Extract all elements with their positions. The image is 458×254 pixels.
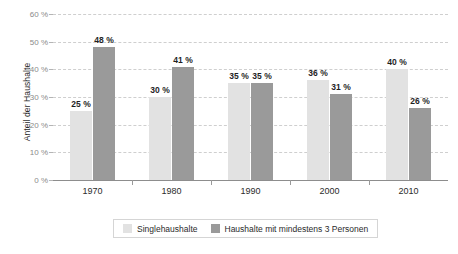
- bar-pair: 40 %26 %: [386, 14, 431, 180]
- bar-pair: 30 %41 %: [149, 14, 194, 180]
- bar[interactable]: 25 %: [70, 111, 92, 180]
- y-tick-label: 50 %: [8, 37, 48, 46]
- legend-swatch-icon-light: [123, 224, 132, 233]
- y-tick-mark: [49, 180, 53, 181]
- bar[interactable]: 36 %: [307, 80, 329, 180]
- x-tick-label: 1970: [58, 186, 128, 196]
- bar-value-label: 40 %: [387, 57, 406, 67]
- bar-chart: Anteil der Haushalte 0 %10 %20 %30 %40 %…: [0, 0, 458, 254]
- bar[interactable]: 41 %: [172, 67, 194, 180]
- y-tick-label: 20 %: [8, 120, 48, 129]
- bar-value-label: 35 %: [229, 71, 248, 81]
- x-tick-mark: [290, 180, 291, 185]
- bar-value-label: 35 %: [252, 71, 271, 81]
- bar[interactable]: 31 %: [330, 94, 352, 180]
- bar-group: 40 %26 %: [369, 14, 448, 180]
- y-tick-label: 40 %: [8, 65, 48, 74]
- bar-value-label: 48 %: [94, 35, 113, 45]
- x-tick-label: 1990: [216, 186, 286, 196]
- bar-pair: 36 %31 %: [307, 14, 352, 180]
- bar-value-label: 30 %: [150, 85, 169, 95]
- chart-legend: Singlehaushalte Haushalte mit mindestens…: [113, 219, 378, 238]
- bar-value-label: 36 %: [308, 68, 327, 78]
- x-axis-line: [49, 180, 448, 181]
- bar[interactable]: 48 %: [93, 47, 115, 180]
- x-tick-mark: [369, 180, 370, 185]
- legend-item-singlehaushalte[interactable]: Singlehaushalte: [123, 224, 198, 234]
- bar[interactable]: 35 %: [251, 83, 273, 180]
- x-tick-label: 2000: [295, 186, 365, 196]
- bar-pair: 25 %48 %: [70, 14, 115, 180]
- y-tick-label: 0 %: [8, 176, 48, 185]
- x-tick-mark: [132, 180, 133, 185]
- bar[interactable]: 40 %: [386, 69, 408, 180]
- bar[interactable]: 30 %: [149, 97, 171, 180]
- bar-value-label: 41 %: [173, 55, 192, 65]
- bar-value-label: 31 %: [331, 82, 350, 92]
- bar-group: 36 %31 %: [290, 14, 369, 180]
- legend-label: Singlehaushalte: [137, 224, 198, 234]
- x-tick-label: 2010: [374, 186, 444, 196]
- plot-area: 0 %10 %20 %30 %40 %50 %60 %25 %48 %19703…: [53, 14, 448, 180]
- bar-value-label: 25 %: [71, 99, 90, 109]
- legend-swatch-icon-dark: [211, 224, 220, 233]
- legend-item-haushalte-mindestens-3-personen[interactable]: Haushalte mit mindestens 3 Personen: [211, 224, 369, 234]
- x-tick-mark: [211, 180, 212, 185]
- y-tick-label: 10 %: [8, 148, 48, 157]
- bar-value-label: 26 %: [410, 96, 429, 106]
- bar-group: 35 %35 %: [211, 14, 290, 180]
- x-tick-label: 1980: [137, 186, 207, 196]
- bar-group: 25 %48 %: [53, 14, 132, 180]
- legend-label: Haushalte mit mindestens 3 Personen: [225, 224, 369, 234]
- bar[interactable]: 26 %: [409, 108, 431, 180]
- bar-pair: 35 %35 %: [228, 14, 273, 180]
- y-tick-label: 30 %: [8, 93, 48, 102]
- bar[interactable]: 35 %: [228, 83, 250, 180]
- bar-group: 30 %41 %: [132, 14, 211, 180]
- y-tick-label: 60 %: [8, 10, 48, 19]
